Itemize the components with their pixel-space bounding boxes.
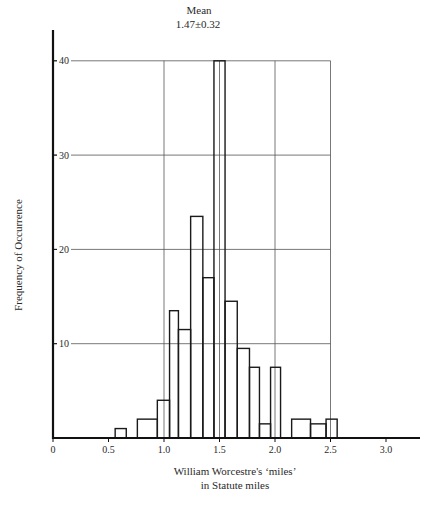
gridlines <box>53 61 331 438</box>
y-tick-label: 30 <box>59 150 69 161</box>
y-axis-title: Frequency of Occurrence <box>12 199 24 311</box>
histogram-chart: 00.51.01.52.02.53.0 10203040 Mean 1.47±0… <box>0 0 439 507</box>
histogram-bar <box>178 330 190 438</box>
mean-annotation-value: 1.47±0.32 <box>176 18 221 30</box>
histogram-bar <box>115 429 126 438</box>
histogram-bar <box>137 419 157 438</box>
x-tick-label: 1.5 <box>213 444 226 455</box>
histogram-bar <box>225 301 237 438</box>
histogram-bar <box>292 419 311 438</box>
x-axis-title-line-2: in Statute miles <box>201 479 269 491</box>
y-tick-label: 40 <box>59 55 69 66</box>
histogram-bar <box>326 419 337 438</box>
histogram-bar <box>157 400 169 438</box>
x-axis-title-line-1: William Worcestre's ‘miles’ <box>174 465 297 477</box>
chart-canvas: 00.51.01.52.02.53.0 10203040 Mean 1.47±0… <box>0 0 439 507</box>
histogram-bar <box>203 278 214 438</box>
histogram-bar <box>271 367 281 438</box>
x-tick-label: 0.5 <box>102 444 115 455</box>
histogram-bar <box>237 348 249 438</box>
x-tick-label: 3.0 <box>380 444 393 455</box>
histogram-bar <box>170 311 179 438</box>
histogram-bar <box>259 424 270 438</box>
x-tick-label: 2.0 <box>269 444 282 455</box>
x-tick-label: 0 <box>51 444 56 455</box>
mean-annotation-label: Mean <box>186 4 212 16</box>
histogram-bar <box>311 424 327 438</box>
x-tick-label: 1.0 <box>158 444 171 455</box>
axes <box>52 30 420 439</box>
y-tick-labels: 10203040 <box>53 55 71 350</box>
x-tick-labels: 00.51.01.52.02.53.0 <box>51 438 393 455</box>
y-tick-label: 10 <box>59 338 69 349</box>
histogram-bar <box>249 367 259 438</box>
x-tick-label: 2.5 <box>324 444 337 455</box>
y-tick-label: 20 <box>59 244 69 255</box>
